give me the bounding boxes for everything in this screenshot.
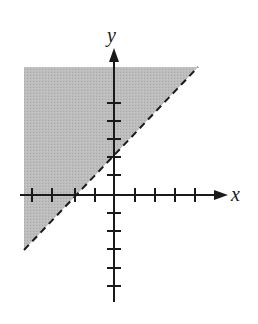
x-axis-label: x [230, 183, 240, 205]
x-axis-arrow-icon [214, 190, 228, 200]
inequality-graph: x y [0, 0, 258, 324]
y-axis-arrow-icon [109, 48, 119, 62]
y-axis-label: y [105, 24, 116, 47]
